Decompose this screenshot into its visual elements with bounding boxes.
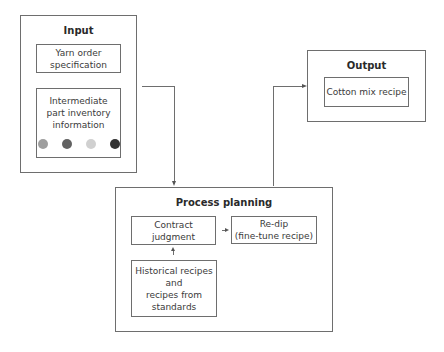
yarn-order-line2: specification: [50, 59, 107, 71]
inventory-info-box: Intermediate part inventory information: [36, 88, 121, 158]
process-title: Process planning: [116, 197, 332, 208]
dot-icon: [38, 139, 48, 149]
dot-icon: [110, 139, 120, 149]
output-title: Output: [308, 60, 425, 71]
contract-line1: Contract: [154, 219, 193, 231]
dot-icon: [62, 139, 72, 149]
arrow-right-icon: [225, 228, 229, 232]
historical-line4: standards: [152, 301, 197, 313]
dot-icon: [86, 139, 96, 149]
inventory-dots: [38, 139, 120, 149]
input-title: Input: [21, 25, 136, 36]
inventory-line1: Intermediate: [49, 95, 107, 107]
arrow-down-icon: [172, 181, 176, 186]
inventory-line3: information: [53, 119, 105, 131]
historical-line3: recipes from: [146, 289, 202, 301]
connector-output-v: [273, 86, 274, 186]
arrow-up-icon: [171, 247, 175, 251]
redip-line1: Re-dip: [260, 218, 289, 230]
input-box: Input Yarn order specification Intermedi…: [20, 15, 137, 173]
historical-recipes-box: Historical recipes and recipes from stan…: [131, 260, 217, 317]
connector-input-v: [174, 86, 175, 182]
inventory-line2: part inventory: [46, 107, 110, 119]
redip-box: Re-dip (fine-tune recipe): [231, 216, 317, 244]
connector-input-h: [142, 86, 174, 87]
yarn-order-line1: Yarn order: [56, 47, 102, 59]
redip-line2: (fine-tune recipe): [235, 230, 313, 242]
historical-line2: and: [166, 277, 183, 289]
contract-line2: judgment: [152, 231, 195, 243]
contract-judgment-box: Contract judgment: [131, 216, 216, 245]
output-box: Output Cotton mix recipe: [307, 50, 426, 122]
historical-line1: Historical recipes: [135, 265, 212, 277]
cotton-mix-label: Cotton mix recipe: [326, 86, 406, 98]
process-planning-box: Process planning Contract judgment Re-di…: [115, 187, 333, 332]
cotton-mix-recipe-box: Cotton mix recipe: [324, 77, 409, 107]
connector-output-h: [273, 86, 303, 87]
yarn-order-spec-box: Yarn order specification: [36, 44, 121, 73]
